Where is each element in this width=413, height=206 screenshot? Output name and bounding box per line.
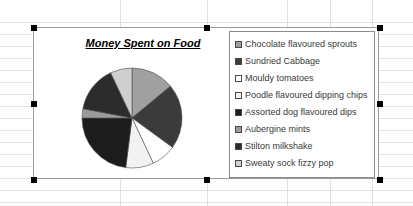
handle-top-right[interactable] xyxy=(377,25,383,31)
legend-swatch-icon xyxy=(235,160,242,167)
legend-swatch-icon xyxy=(235,126,242,133)
legend-item-label: Sundried Cabbage xyxy=(245,56,320,67)
legend-item[interactable]: Stilton milkshake xyxy=(235,138,371,155)
legend-item[interactable]: Sundried Cabbage xyxy=(235,53,371,70)
legend-item[interactable]: Poodle flavoured dipping chips xyxy=(235,87,371,104)
chart-object[interactable]: Money Spent on Food Chocolate flavoured … xyxy=(33,27,379,179)
legend-item-label: Mouldy tomatoes xyxy=(245,73,314,84)
handle-top-center[interactable] xyxy=(204,25,210,31)
handle-top-left[interactable] xyxy=(31,25,37,31)
legend-swatch-icon xyxy=(235,143,242,150)
legend-item-label: Sweaty sock fizzy pop xyxy=(245,158,334,169)
chart-title: Money Spent on Food xyxy=(48,37,238,49)
chart-legend[interactable]: Chocolate flavoured sproutsSundried Cabb… xyxy=(229,31,375,178)
legend-swatch-icon xyxy=(235,41,242,48)
legend-item[interactable]: Aubergine mints xyxy=(235,121,371,138)
legend-item-label: Poodle flavoured dipping chips xyxy=(245,90,368,101)
handle-middle-left[interactable] xyxy=(31,101,37,107)
legend-item-label: Chocolate flavoured sprouts xyxy=(245,39,357,50)
legend-item-label: Aubergine mints xyxy=(245,124,310,135)
legend-item[interactable]: Mouldy tomatoes xyxy=(235,70,371,87)
legend-item[interactable]: Sweaty sock fizzy pop xyxy=(235,155,371,172)
legend-swatch-icon xyxy=(235,75,242,82)
handle-bottom-left[interactable] xyxy=(31,177,37,183)
pie-chart-svg xyxy=(80,66,184,170)
legend-swatch-icon xyxy=(235,109,242,116)
legend-item-label: Stilton milkshake xyxy=(245,141,313,152)
pie-chart-plot-area[interactable] xyxy=(80,66,184,170)
legend-item[interactable]: Assorted dog flavoured dips xyxy=(235,104,371,121)
handle-bottom-center[interactable] xyxy=(204,177,210,183)
handle-bottom-right[interactable] xyxy=(377,177,383,183)
legend-swatch-icon xyxy=(235,92,242,99)
pie-slice-4[interactable] xyxy=(82,118,132,168)
legend-swatch-icon xyxy=(235,58,242,65)
handle-middle-right[interactable] xyxy=(377,101,383,107)
legend-item[interactable]: Chocolate flavoured sprouts xyxy=(235,36,371,53)
legend-item-label: Assorted dog flavoured dips xyxy=(245,107,357,118)
